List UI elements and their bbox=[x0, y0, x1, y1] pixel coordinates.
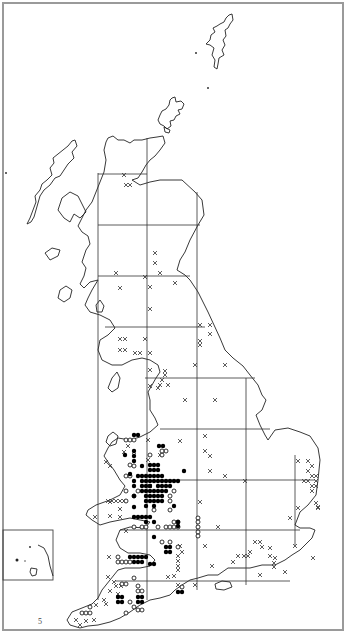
cross-marker bbox=[106, 575, 110, 579]
cross-marker bbox=[223, 363, 227, 367]
filled-circle-marker bbox=[140, 479, 144, 483]
filled-circle-marker bbox=[123, 453, 127, 457]
coastline-isle-of-wight bbox=[215, 581, 232, 590]
open-circle-marker bbox=[196, 530, 200, 534]
open-circle-marker bbox=[116, 560, 120, 564]
filled-circle-marker bbox=[116, 595, 120, 599]
open-circle-marker bbox=[116, 555, 120, 559]
cross-marker bbox=[272, 561, 276, 565]
cross-marker bbox=[128, 183, 132, 187]
cross-marker bbox=[148, 285, 152, 289]
cross-marker bbox=[216, 525, 220, 529]
open-circle-marker bbox=[128, 560, 132, 564]
open-circle-marker bbox=[128, 600, 132, 604]
cross-marker bbox=[112, 580, 116, 584]
open-circle-marker bbox=[128, 463, 132, 467]
filled-circle-marker bbox=[152, 562, 156, 566]
open-circle-marker bbox=[160, 453, 164, 457]
cross-marker bbox=[260, 545, 264, 549]
cross-marker bbox=[160, 378, 164, 382]
cross-marker bbox=[306, 459, 310, 463]
cross-marker bbox=[114, 271, 118, 275]
cross-marker bbox=[166, 383, 170, 387]
open-circle-marker bbox=[156, 525, 160, 529]
cross-marker bbox=[246, 554, 250, 558]
cross-marker bbox=[118, 499, 122, 503]
filled-circle-marker bbox=[156, 484, 160, 488]
cross-marker bbox=[178, 439, 182, 443]
filled-circle-marker bbox=[160, 474, 164, 478]
open-circle-marker bbox=[164, 449, 168, 453]
island-dot bbox=[207, 87, 209, 89]
coastline-normandy bbox=[38, 545, 53, 576]
cross-marker bbox=[108, 589, 112, 593]
cross-marker bbox=[176, 568, 180, 572]
cross-marker bbox=[114, 584, 118, 588]
inset-frame bbox=[3, 530, 53, 580]
open-circle-marker bbox=[180, 585, 184, 589]
filled-circle-marker bbox=[144, 555, 148, 559]
filled-circle-marker bbox=[128, 555, 132, 559]
cross-marker bbox=[268, 554, 272, 558]
cross-marker bbox=[203, 544, 207, 548]
cross-marker bbox=[84, 619, 88, 623]
open-circle-marker bbox=[120, 560, 124, 564]
filled-circle-marker bbox=[144, 499, 148, 503]
filled-circle-marker bbox=[132, 560, 136, 564]
cross-marker bbox=[92, 618, 96, 622]
open-circle-marker bbox=[84, 611, 88, 615]
filled-circle-marker bbox=[132, 494, 136, 498]
open-circle-marker bbox=[172, 489, 176, 493]
filled-circle-marker bbox=[148, 489, 152, 493]
filled-circle-marker bbox=[160, 479, 164, 483]
filled-circle-marker bbox=[156, 474, 160, 478]
open-circle-marker bbox=[148, 453, 152, 457]
open-circle-marker bbox=[124, 474, 128, 478]
filled-circle-marker bbox=[132, 433, 136, 437]
open-circle-marker bbox=[140, 589, 144, 593]
open-circle-marker bbox=[136, 608, 140, 612]
cross-marker bbox=[118, 337, 122, 341]
cross-marker bbox=[166, 575, 170, 579]
open-circle-marker bbox=[132, 525, 136, 529]
filled-circle-marker bbox=[144, 484, 148, 488]
filled-circle-marker bbox=[144, 520, 148, 524]
cross-marker bbox=[268, 546, 272, 550]
cross-marker bbox=[183, 398, 187, 402]
cross-marker bbox=[138, 351, 142, 355]
filled-circle-marker bbox=[128, 472, 132, 476]
filled-circle-marker bbox=[182, 469, 186, 473]
filled-circle-marker bbox=[152, 535, 156, 539]
filled-circle-marker bbox=[164, 484, 168, 488]
filled-circle-marker bbox=[140, 555, 144, 559]
cross-marker bbox=[180, 550, 184, 554]
cross-marker bbox=[148, 351, 152, 355]
filled-circle-marker bbox=[136, 433, 140, 437]
filled-circle-marker bbox=[152, 499, 156, 503]
open-circle-marker bbox=[172, 525, 176, 529]
cross-marker bbox=[198, 339, 202, 343]
coastline-great-britain bbox=[67, 136, 320, 628]
filled-circle-marker bbox=[132, 515, 136, 519]
cross-marker bbox=[176, 564, 180, 568]
page-marker: 5 bbox=[38, 617, 42, 626]
filled-circle-marker bbox=[157, 444, 161, 448]
filled-circle-marker bbox=[144, 494, 148, 498]
filled-circle-marker bbox=[176, 479, 180, 483]
filled-circle-marker bbox=[152, 463, 156, 467]
filled-circle-marker bbox=[168, 484, 172, 488]
cross-marker bbox=[176, 583, 180, 587]
cross-marker bbox=[208, 332, 212, 336]
filled-circle-marker bbox=[176, 590, 180, 594]
cross-marker bbox=[258, 540, 262, 544]
cross-marker bbox=[310, 464, 314, 468]
cross-marker bbox=[314, 474, 318, 478]
filled-circle-marker bbox=[132, 449, 136, 453]
filled-circle-marker bbox=[144, 489, 148, 493]
filled-circle-marker bbox=[136, 595, 140, 599]
grid-lines bbox=[98, 138, 315, 600]
cross-marker bbox=[143, 337, 147, 341]
filled-circle-marker bbox=[148, 468, 152, 472]
open-circle-marker bbox=[132, 464, 136, 468]
filled-circle-marker bbox=[132, 505, 136, 509]
